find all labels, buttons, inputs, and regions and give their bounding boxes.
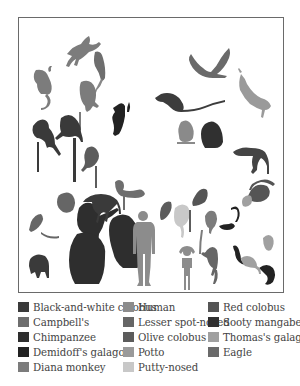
legend-item-eagle: Eagle [208, 345, 252, 359]
legend-item-diana-monkey: Diana monkey [18, 360, 106, 374]
legend-item-demidoffs-galago: Demidoff's galago [18, 345, 124, 359]
black-and-white-colobus-3-silhouette [29, 254, 49, 278]
swatch-putty-nosed [123, 362, 134, 372]
swatch-diana-monkey [18, 362, 29, 372]
swatch-demidoffs-galago [18, 347, 29, 357]
legend-item-human: Human [123, 300, 175, 314]
legend-label: Red colobus [223, 302, 285, 313]
putty-nosed-silhouette [174, 204, 190, 238]
swatch-chimpanzee [18, 332, 29, 342]
campbells-3-silhouette [201, 247, 218, 284]
diana-monkey-silhouette [48, 36, 101, 72]
legend-item-red-colobus: Red colobus [208, 300, 285, 314]
demidoffs-galago-hanging-silhouette [112, 102, 130, 136]
legend-label: Diana monkey [33, 362, 106, 373]
human-adult-silhouette [133, 211, 155, 286]
legend-item-thomas-galago: Thomas's galago [208, 330, 300, 344]
eagle-silhouette [189, 48, 230, 78]
legend-item-sooty-mangabey: Sooty mangabey [208, 315, 300, 329]
legend-item-putty-nosed: Putty-nosed [123, 360, 198, 374]
potto-leaping-silhouette [238, 68, 271, 118]
legend-label: Human [138, 302, 175, 313]
potto-sitting-silhouette [177, 120, 195, 144]
swatch-black-and-white-colobus [18, 302, 29, 312]
swatch-lesser-spot-nosed [123, 317, 134, 327]
red-colobus-3-silhouette [192, 189, 207, 206]
swatch-potto [123, 347, 134, 357]
legend-label: Chimpanzee [33, 332, 96, 343]
legend-label: Demidoff's galago [33, 347, 124, 358]
red-colobus-hanging-silhouette [155, 93, 225, 112]
black-and-white-colobus-silhouette [33, 115, 84, 182]
illustration-frame [18, 17, 284, 293]
swatch-sooty-mangabey [208, 317, 219, 327]
lesser-spot-nosed-silhouette [29, 192, 75, 238]
legend-item-potto: Potto [123, 345, 164, 359]
swatch-campbells [18, 317, 29, 327]
diana-monkey-3-silhouette [79, 81, 99, 130]
animal-silhouettes [19, 18, 285, 294]
swatch-red-colobus [208, 302, 219, 312]
legend-label: Campbell's [33, 317, 89, 328]
red-colobus-silhouette [233, 148, 269, 175]
legend-item-campbells: Campbell's [18, 315, 89, 329]
legend-label: Potto [138, 347, 164, 358]
legend-label: Olive colobus [138, 332, 206, 343]
sooty-mangabey-silhouette [201, 121, 223, 148]
legend-label: Thomas's galago [223, 332, 300, 343]
olive-colobus-silhouette [81, 146, 99, 188]
swatch-eagle [208, 347, 219, 357]
swatch-human [123, 302, 134, 312]
legend-label: Putty-nosed [138, 362, 198, 373]
thomas-galago-silhouette [241, 195, 274, 274]
legend-item-chimpanzee: Chimpanzee [18, 330, 96, 344]
swatch-olive-colobus [123, 332, 134, 342]
legend-label: Sooty mangabey [223, 317, 300, 328]
swatch-thomas-galago [208, 332, 219, 342]
legend-label: Eagle [223, 347, 252, 358]
human-child-silhouette [179, 246, 195, 290]
legend-item-olive-colobus: Olive colobus [123, 330, 206, 344]
diana-monkey-2-silhouette [34, 70, 52, 110]
